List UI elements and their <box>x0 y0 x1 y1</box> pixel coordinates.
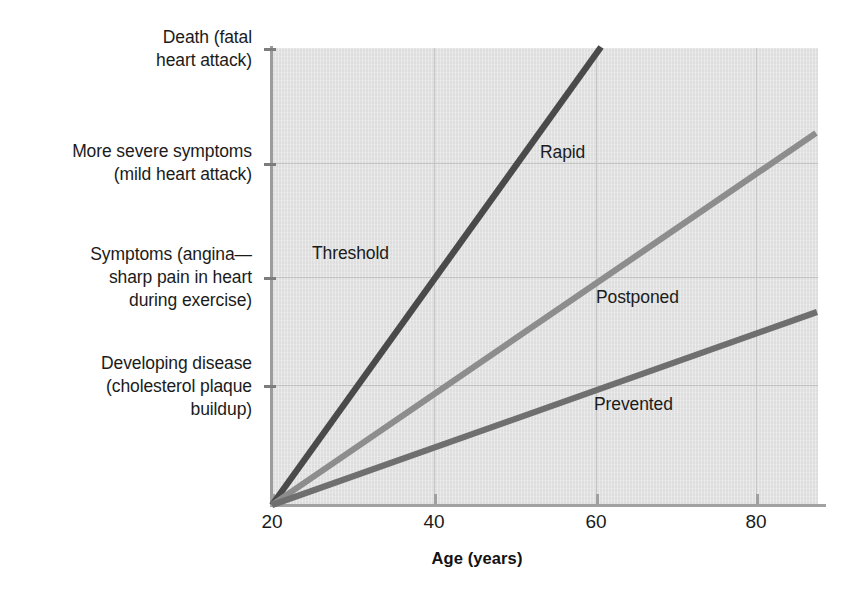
x-axis-tick-label-20: 20 <box>242 511 302 533</box>
gridline-vertical-40 <box>434 48 435 505</box>
disease-progression-chart: Death (fatal heart attack) More severe s… <box>0 0 842 593</box>
annotation-threshold: Threshold <box>312 243 389 264</box>
gridline-horizontal-symptoms <box>272 277 818 278</box>
y-axis-label-developing-disease: Developing disease (cholesterol plaque b… <box>0 352 252 421</box>
y-axis-label-death-line2: heart attack) <box>0 49 252 72</box>
x-tick-40 <box>434 494 437 505</box>
annotation-postponed: Postponed <box>596 287 679 308</box>
y-axis-label-symptoms: Symptoms (angina— sharp pain in heart du… <box>0 243 252 312</box>
y-tick-death <box>264 48 276 51</box>
y-tick-developing <box>264 385 276 388</box>
x-axis-tick-label-80: 80 <box>726 511 786 533</box>
annotation-prevented: Prevented <box>594 394 673 415</box>
y-tick-symptoms <box>264 277 276 280</box>
x-axis-tick-label-60: 60 <box>566 511 626 533</box>
x-tick-80 <box>756 494 759 505</box>
x-axis-title-text: Age (years) <box>432 549 523 567</box>
x-tick-60 <box>596 494 599 505</box>
x-axis-title: Age (years) <box>0 549 842 568</box>
gridline-horizontal-developing <box>272 385 818 386</box>
y-axis-label-symptoms-line2: sharp pain in heart <box>0 266 252 289</box>
y-axis-label-death-line1: Death (fatal <box>0 26 252 49</box>
gridline-vertical-80 <box>756 48 757 505</box>
annotation-rapid: Rapid <box>540 142 585 163</box>
y-axis-label-symptoms-line1: Symptoms (angina— <box>0 243 252 266</box>
y-axis-label-severe-line2: (mild heart attack) <box>0 163 252 186</box>
y-axis-label-severe-symptoms: More severe symptoms (mild heart attack) <box>0 140 252 186</box>
y-axis-label-developing-line1: Developing disease <box>0 352 252 375</box>
gridline-horizontal-severe-symptoms <box>272 163 818 164</box>
y-axis-label-symptoms-line3: during exercise) <box>0 289 252 312</box>
y-tick-severe-symptoms <box>264 163 276 166</box>
gridline-vertical-60 <box>596 48 597 505</box>
x-tick-20 <box>272 494 275 505</box>
x-axis-line <box>270 504 826 507</box>
y-axis-label-developing-line2: (cholesterol plaque <box>0 375 252 398</box>
y-axis-label-severe-line1: More severe symptoms <box>0 140 252 163</box>
y-axis-label-death: Death (fatal heart attack) <box>0 26 252 72</box>
x-axis-tick-label-40: 40 <box>404 511 464 533</box>
y-axis-label-developing-line3: buildup) <box>0 398 252 421</box>
